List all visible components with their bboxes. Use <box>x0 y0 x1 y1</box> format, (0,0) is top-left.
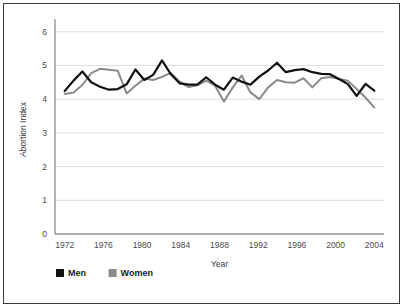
legend-swatch-men <box>56 269 64 277</box>
y-axis-title: Abortion Index <box>18 101 28 157</box>
x-tick-label: 1984 <box>171 240 190 250</box>
y-tick-label: 6 <box>42 27 47 37</box>
x-tick-label: 1972 <box>55 240 74 250</box>
x-tick-label: 1980 <box>133 240 152 250</box>
chart-frame: 0123456 19721976198019841988199219962000… <box>3 3 400 304</box>
y-tick-label: 0 <box>42 229 47 239</box>
x-tick-label: 1988 <box>210 240 229 250</box>
y-tick-labels-group: 0123456 <box>42 27 47 239</box>
y-tick-label: 1 <box>42 195 47 205</box>
data-series-group <box>65 60 375 107</box>
x-tick-label: 2000 <box>326 240 345 250</box>
line-chart: 0123456 19721976198019841988199219962000… <box>4 4 399 303</box>
x-axis-title: Year <box>211 259 228 269</box>
x-tick-labels-group: 197219761980198419881992199620002004 <box>55 240 384 250</box>
axis-lines-group <box>55 19 384 234</box>
legend-label-men: Men <box>68 268 86 278</box>
y-tick-label: 3 <box>42 128 47 138</box>
y-tick-label: 5 <box>42 60 47 70</box>
x-tick-label: 2004 <box>365 240 384 250</box>
y-tick-label: 4 <box>42 94 47 104</box>
legend: MenWomen <box>56 268 153 278</box>
legend-label-women: Women <box>121 268 153 278</box>
x-tick-label: 1992 <box>249 240 268 250</box>
gridlines-group <box>55 32 384 234</box>
x-tick-label: 1976 <box>94 240 113 250</box>
x-tick-label: 1996 <box>287 240 306 250</box>
legend-swatch-women <box>109 269 117 277</box>
figure-container: 0123456 19721976198019841988199219962000… <box>0 0 403 307</box>
y-tick-label: 2 <box>42 162 47 172</box>
